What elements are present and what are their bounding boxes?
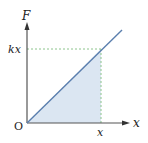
x-axis-arrow-icon [122, 121, 130, 126]
y-marker-label: kx [8, 43, 22, 56]
y-axis-arrow-icon [25, 22, 30, 30]
force-displacement-diagram: F x O kx x [0, 0, 148, 143]
x-axis-label: x [133, 116, 140, 130]
origin-label: O [14, 120, 23, 133]
y-axis-label: F [21, 9, 31, 23]
x-marker-label: x [97, 126, 104, 139]
